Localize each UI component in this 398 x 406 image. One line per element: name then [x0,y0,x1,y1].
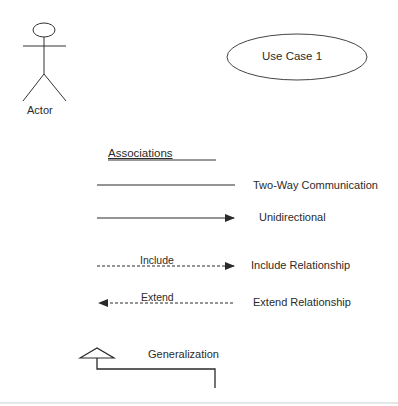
diagram-graphics [0,0,398,406]
actor-label: Actor [27,104,53,116]
use-case-label: Use Case 1 [262,50,322,62]
two-way-communication-label: Two-Way Communication [253,179,378,191]
generalization-label: Generalization [148,348,219,360]
include-relationship-label: Include Relationship [251,259,350,271]
include-line-label: Include [140,254,174,266]
associations-heading: Associations [108,147,173,159]
extend-relationship-label: Extend Relationship [253,296,351,308]
uml-legend-diagram: Actor Use Case 1 Associations Two-Way Co… [0,0,398,406]
bottom-divider [0,402,398,404]
extend-line-label: Extend [141,291,174,303]
actor-icon [23,23,66,101]
unidirectional-label: Unidirectional [259,211,326,223]
